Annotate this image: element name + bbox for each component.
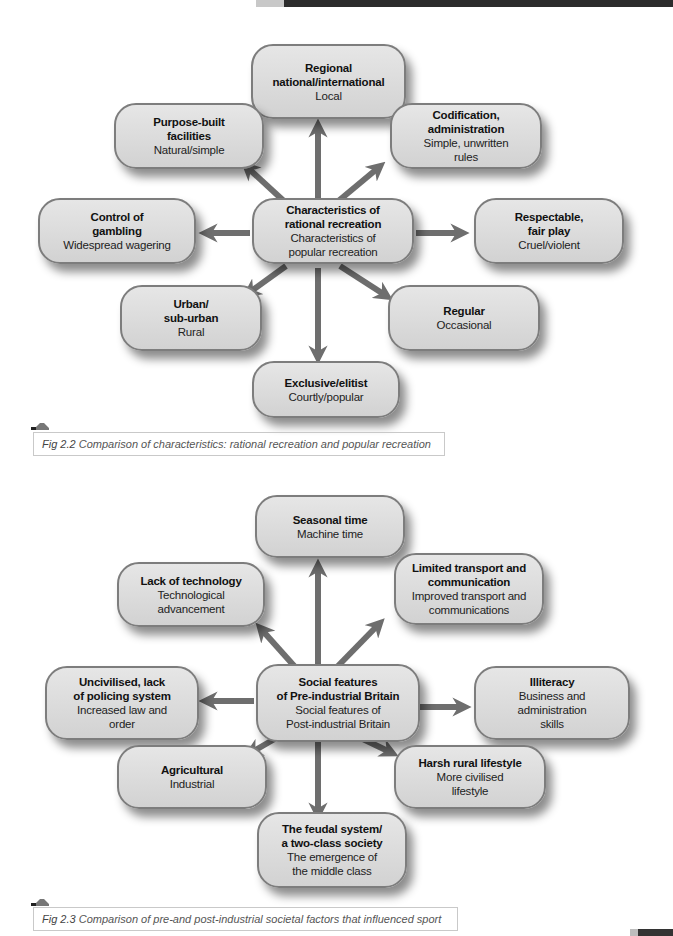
arrow-up-left <box>262 630 296 668</box>
node-secondary-label: Industrial <box>170 777 215 791</box>
node-top: Seasonal time Machine time <box>255 495 405 558</box>
node-secondary-label: Machine time <box>297 527 363 541</box>
node-primary-label: Limited transport and communication <box>412 561 526 589</box>
node-primary-label: The feudal system/ a two-class society <box>281 822 382 850</box>
center-node: Social features of Pre-industrial Britai… <box>256 664 420 742</box>
arrow-up-right <box>336 625 378 668</box>
page-tab-dark <box>638 929 673 936</box>
node-primary-label: Uncivilised, lack of policing system <box>73 675 170 703</box>
figure-caption-text: Comparison of pre-and post-industrial so… <box>79 913 442 925</box>
center-primary-label: Social features of Pre-industrial Britai… <box>277 675 400 703</box>
page-tab-light <box>630 929 638 936</box>
node-top-left: Lack of technology Technological advance… <box>117 562 265 627</box>
node-bottom-right: Harsh rural lifestyle More civilised lif… <box>394 745 546 809</box>
node-secondary-label: The emergence of the middle class <box>287 850 377 878</box>
node-primary-label: Agricultural <box>161 763 223 777</box>
figure-caption: Fig 2.3 Comparison of pre-and post-indus… <box>33 907 458 931</box>
node-secondary-label: Business and administration skills <box>484 689 620 731</box>
node-secondary-label: More civilised lifestyle <box>437 770 504 798</box>
arrows-fig-2-3 <box>0 0 673 936</box>
caption-marker-icon <box>31 898 51 906</box>
node-left: Uncivilised, lack of policing system Inc… <box>45 666 199 740</box>
node-secondary-label: Increased law and order <box>77 703 167 731</box>
node-secondary-label: Technological advancement <box>157 588 224 616</box>
node-primary-label: Lack of technology <box>140 574 241 588</box>
node-primary-label: Illiteracy <box>530 675 575 689</box>
center-secondary-label: Social features of Post-industrial Brita… <box>286 703 390 731</box>
node-secondary-label: Improved transport and communications <box>412 589 527 617</box>
node-primary-label: Seasonal time <box>293 513 368 527</box>
node-bottom-left: Agricultural Industrial <box>117 745 267 809</box>
figure-number: Fig 2.3 <box>42 913 76 925</box>
node-bottom: The feudal system/ a two-class society T… <box>257 812 407 888</box>
figure-2-3: Social features of Pre-industrial Britai… <box>0 0 673 936</box>
node-right: Illiteracy Business and administration s… <box>474 666 630 740</box>
node-top-right: Limited transport and communication Impr… <box>394 553 544 625</box>
node-primary-label: Harsh rural lifestyle <box>418 756 521 770</box>
